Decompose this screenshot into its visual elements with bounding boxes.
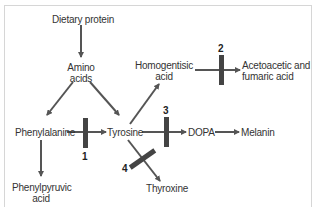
node-dietary-protein: Dietary protein — [52, 14, 112, 25]
node-phenylpyruvic-line1: Phenylpyruvic — [12, 182, 70, 193]
block-label-3: 3 — [163, 106, 169, 116]
node-acetoacetic-line1: Acetoacetic and — [242, 60, 310, 71]
node-phenylpyruvic-line2: acid — [12, 193, 70, 204]
node-phenylalanine: Phenylalanine — [15, 127, 75, 138]
block-bar-2 — [219, 55, 224, 85]
block-label-2: 2 — [218, 44, 224, 54]
node-amino-acids-line2: acids — [66, 73, 96, 84]
block-label-4: 4 — [122, 164, 128, 174]
block-bar-4 — [129, 148, 156, 169]
block-label-1: 1 — [82, 152, 88, 162]
node-tyrosine: Tyrosine — [107, 127, 143, 138]
arrow-amino-to-tyrosine — [90, 82, 119, 115]
node-homogentisic-line1: Homogentisic — [134, 60, 194, 71]
node-acetoacetic-line2: fumaric acid — [242, 71, 294, 82]
node-melanin: Melanin — [241, 127, 275, 138]
node-amino-acids-line1: Amino — [66, 62, 96, 73]
node-dopa: DOPA — [188, 127, 215, 138]
arrow-tyrosine-to-homogentisic — [130, 84, 159, 124]
block-bar-1 — [83, 118, 88, 148]
node-thyroxine: Thyroxine — [146, 183, 188, 194]
node-homogentisic-line2: acid — [134, 71, 194, 82]
pathway-arrows — [0, 0, 315, 207]
block-bar-3 — [164, 117, 169, 147]
arrow-amino-to-phenylalanine — [47, 82, 73, 115]
